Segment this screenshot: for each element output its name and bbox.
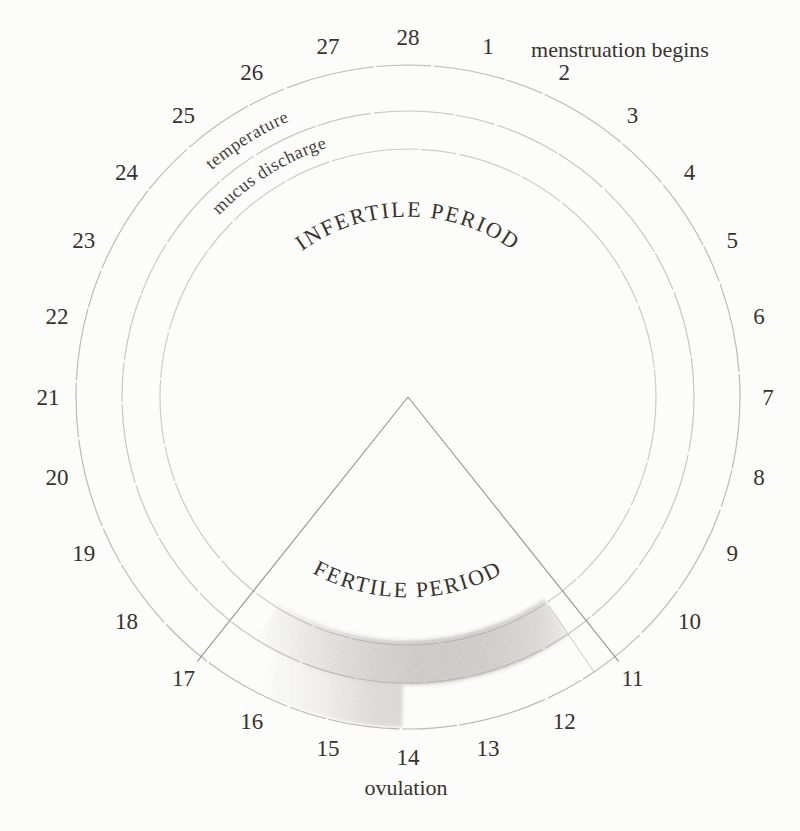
day-6-label: 6	[753, 304, 765, 329]
day-19-label: 19	[72, 541, 95, 566]
temperature-ring-label: temperature	[201, 107, 291, 174]
day-24-label: 24	[115, 160, 139, 185]
day-22-label: 22	[46, 304, 69, 329]
day-4-label: 4	[684, 160, 696, 185]
day-5-label: 5	[727, 228, 739, 253]
day-11-label: 11	[621, 666, 643, 691]
day-1-label: 1	[482, 34, 494, 59]
day-17-label: 17	[172, 666, 195, 691]
day-7-label: 7	[762, 385, 774, 410]
day-3-label: 3	[627, 103, 639, 128]
day-18-label: 18	[115, 609, 138, 634]
day-10-label: 10	[678, 609, 701, 634]
day-8-label: 8	[753, 465, 765, 490]
day-23-label: 23	[72, 228, 95, 253]
cycle-diagram-page: 1234567891011121314151617181920212223242…	[0, 0, 800, 831]
day-20-label: 20	[46, 465, 69, 490]
day-15-label: 15	[316, 736, 339, 761]
day-12-label: 12	[553, 709, 576, 734]
day-2-label: 2	[558, 60, 570, 85]
day-16-label: 16	[240, 709, 263, 734]
day-21-label: 21	[37, 385, 60, 410]
ovulation-annotation: ovulation	[364, 775, 447, 800]
fertile-period-label: FERTILE PERIOD	[310, 555, 506, 602]
day-26-label: 26	[240, 60, 263, 85]
menstruation-begins-annotation: menstruation begins	[531, 37, 709, 62]
day-28-label: 28	[397, 25, 420, 50]
day-14-label: 14	[397, 745, 421, 770]
infertile-period-label: INFERTILE PERIOD	[290, 196, 525, 255]
day-27-label: 27	[316, 34, 339, 59]
cycle-wheel: 1234567891011121314151617181920212223242…	[0, 0, 800, 831]
day-25-label: 25	[172, 103, 195, 128]
day-9-label: 9	[727, 541, 739, 566]
day-13-label: 13	[477, 736, 500, 761]
